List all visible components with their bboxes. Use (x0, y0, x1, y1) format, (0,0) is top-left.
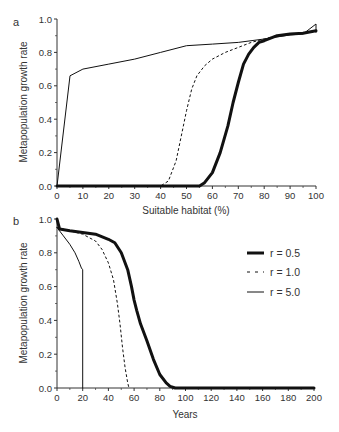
x-tick-label: 120 (203, 392, 219, 403)
x-tick-label: 100 (308, 190, 324, 201)
panel-a: a 0.00.20.40.60.81.0 0102030405060708090… (13, 14, 324, 217)
panel-a-x-axis-title: Suitable habitat (%) (142, 205, 229, 216)
y-tick-label: 0.2 (39, 349, 52, 360)
x-tick-label: 20 (104, 190, 115, 201)
x-tick-label: 160 (255, 392, 271, 403)
y-tick-label: 0.0 (39, 181, 52, 192)
panel-b-label: b (13, 215, 19, 227)
x-tick-label: 20 (77, 392, 88, 403)
y-tick-label: 0.4 (39, 114, 52, 125)
x-tick-label: 40 (103, 392, 114, 403)
x-tick-label: 10 (78, 190, 89, 201)
y-tick-label: 0.6 (39, 80, 52, 91)
panel-a-x-ticks: 0102030405060708090100 (54, 186, 324, 201)
panel-a-y-ticks: 0.00.20.40.60.81.0 (39, 14, 57, 192)
y-tick-label: 0.0 (39, 383, 52, 394)
panel-a-y-axis-title: Metapopulation growth rate (18, 41, 29, 163)
x-tick-label: 0 (54, 392, 59, 403)
x-tick-label: 80 (155, 392, 166, 403)
legend-item-r-1-0: r = 1.0 (247, 266, 300, 278)
y-tick-label: 0.4 (39, 315, 52, 326)
series-line-r-0-5 (57, 219, 314, 388)
y-tick-label: 1.0 (39, 214, 52, 225)
legend-item-r-5-0: r = 5.0 (247, 286, 300, 298)
series-line-r-5-0 (57, 228, 83, 389)
legend-label: r = 5.0 (270, 286, 300, 298)
series-line-r-5-0 (57, 24, 316, 186)
panel-b-y-axis-title: Metapopulation growth rate (18, 242, 29, 364)
y-tick-label: 0.8 (39, 47, 52, 58)
y-tick-label: 1.0 (39, 14, 52, 25)
y-tick-label: 0.2 (39, 147, 52, 158)
legend-label: r = 1.0 (270, 266, 300, 278)
legend: r = 0.5 r = 1.0 r = 5.0 (247, 247, 300, 298)
y-tick-label: 0.8 (39, 247, 52, 258)
x-tick-label: 50 (181, 190, 192, 201)
panel-b-x-ticks: 020406080100120140160180200 (54, 388, 322, 403)
panel-b-series (57, 219, 314, 388)
series-line-r-0-5 (57, 31, 316, 186)
series-line-r-1-0 (57, 228, 129, 389)
x-tick-label: 200 (306, 392, 322, 403)
x-tick-label: 90 (285, 190, 296, 201)
legend-item-r-0-5: r = 0.5 (247, 247, 300, 259)
x-tick-label: 40 (155, 190, 166, 201)
panel-b-x-axis-title: Years (172, 409, 197, 420)
panel-b: b 0.00.20.40.60.81.0 0204060801001201401… (13, 214, 322, 421)
panel-b-y-ticks: 0.00.20.40.60.81.0 (39, 214, 57, 394)
x-tick-label: 180 (280, 392, 296, 403)
y-tick-label: 0.6 (39, 281, 52, 292)
x-tick-label: 30 (129, 190, 140, 201)
x-tick-label: 0 (54, 190, 59, 201)
x-tick-label: 140 (229, 392, 245, 403)
panel-a-label: a (13, 16, 20, 28)
x-tick-label: 100 (178, 392, 194, 403)
x-tick-label: 60 (129, 392, 140, 403)
legend-label: r = 0.5 (270, 247, 300, 259)
figure: a 0.00.20.40.60.81.0 0102030405060708090… (0, 0, 339, 432)
x-tick-label: 80 (259, 190, 270, 201)
panel-a-series (57, 24, 316, 186)
x-tick-label: 60 (207, 190, 218, 201)
series-line-r-1-0 (57, 31, 316, 186)
x-tick-label: 70 (233, 190, 244, 201)
